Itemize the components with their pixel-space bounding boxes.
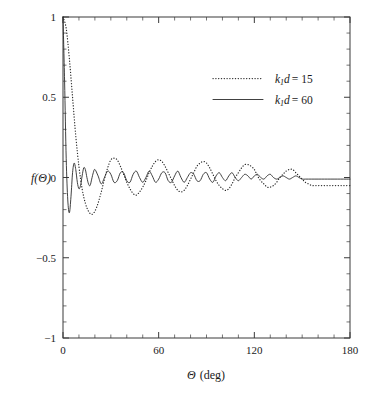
legend-d-symbol-2: d [284,94,290,106]
x-axis-label-symbol: Θ [187,368,196,382]
y-axis-label: f(Θ) [31,171,51,185]
x-axis-label: Θ(deg) [187,368,225,382]
x-tick-label: 0 [60,344,66,356]
x-tick-label: 60 [153,344,165,356]
legend-value-1: = 15 [292,73,313,85]
y-tick-label: 0 [51,172,57,184]
x-axis-label-unit: (deg) [200,368,225,382]
y-tick-label: 0.5 [42,91,56,103]
y-tick-label: −1 [44,332,56,344]
scattering-amplitude-chart: 060120180 −1−0.500.51 k1d= 15 k1d= 60 f(… [0,0,378,393]
x-tick-label: 180 [342,344,359,356]
y-tick-label: −0.5 [36,252,56,264]
legend-d-symbol-1: d [284,73,290,85]
chart-background [0,0,378,393]
x-tick-label: 120 [246,344,263,356]
legend-value-2: = 60 [292,94,313,106]
y-tick-label: 1 [51,11,57,23]
